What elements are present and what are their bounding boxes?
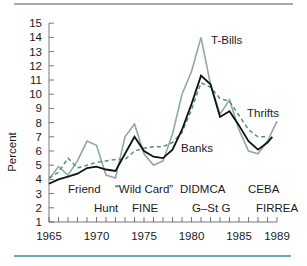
annotation-wildcard: “Wild Card” (115, 183, 173, 195)
x-tick-1980: 1980 (179, 230, 205, 242)
y-tick-label: 14 (29, 31, 42, 43)
annotation-fine: FINE (132, 202, 159, 214)
x-tick-1975: 1975 (131, 230, 157, 242)
x-tick-1970: 1970 (84, 230, 110, 242)
y-tick-label: 7 (36, 131, 42, 143)
annotation-hunt: Hunt (94, 202, 119, 214)
y-tick-label: 4 (36, 173, 43, 185)
annotation-ceba: CEBA (248, 183, 280, 195)
y-axis-label: Percent (6, 131, 18, 171)
x-axis: 1965 1970 1975 1980 1985 1989 (36, 217, 290, 242)
y-tick-label: 8 (36, 117, 42, 129)
y-tick-label: 12 (29, 60, 42, 72)
y-tick-label: 9 (36, 102, 42, 114)
label-banks: Banks (181, 142, 213, 154)
y-axis: 123456789101112131415 (29, 17, 54, 228)
x-tick-1989: 1989 (264, 230, 290, 242)
y-tick-label: 1 (36, 216, 42, 228)
annotation-friend: Friend (68, 183, 101, 195)
annotation-firrea: FIRREA (256, 202, 299, 214)
y-tick-label: 13 (29, 46, 42, 58)
chart: 123456789101112131415 Percent 1965 1970 … (0, 0, 307, 266)
y-tick-label: 2 (36, 202, 42, 214)
y-tick-label: 3 (36, 188, 42, 200)
y-tick-label: 15 (29, 17, 42, 29)
label-thrifts: Thrifts (247, 107, 279, 119)
y-tick-label: 11 (30, 74, 42, 86)
y-tick-label: 10 (29, 88, 42, 100)
x-tick-1985: 1985 (226, 230, 252, 242)
y-tick-label: 5 (36, 159, 42, 171)
annotation-gstg: G–St G (192, 202, 230, 214)
annotation-didmca: DIDMCA (180, 183, 226, 195)
x-tick-1965: 1965 (36, 230, 62, 242)
label-tbills: T-Bills (211, 34, 243, 46)
y-tick-label: 6 (36, 145, 42, 157)
